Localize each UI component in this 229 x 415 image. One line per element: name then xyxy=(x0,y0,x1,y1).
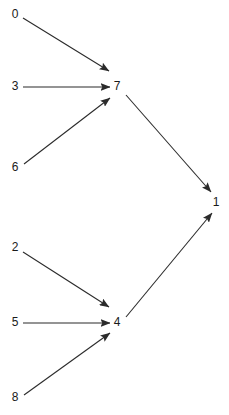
graph-node-label-1: 1 xyxy=(213,195,220,209)
graph-node-label-3: 3 xyxy=(12,79,19,93)
graph-node-label-4: 4 xyxy=(114,315,121,329)
graph-edge-6-to-7 xyxy=(24,98,110,164)
graph-node-label-8: 8 xyxy=(12,390,19,404)
nodes-group: 036258741 xyxy=(12,7,220,404)
graph-node-label-7: 7 xyxy=(114,79,121,93)
graph-node-label-5: 5 xyxy=(12,315,19,329)
graph-edge-0-to-7 xyxy=(23,18,109,71)
graph-node-label-6: 6 xyxy=(12,160,19,174)
graph-node-label-2: 2 xyxy=(12,240,19,254)
graph-canvas: 036258741 xyxy=(0,0,229,415)
edges-group xyxy=(23,18,212,395)
graph-edge-2-to-4 xyxy=(23,252,109,307)
graph-edge-7-to-1 xyxy=(126,95,211,192)
graph-edge-4-to-1 xyxy=(126,213,212,317)
graph-node-label-0: 0 xyxy=(12,7,19,21)
graph-svg: 036258741 xyxy=(0,0,229,415)
graph-edge-8-to-4 xyxy=(24,333,110,395)
